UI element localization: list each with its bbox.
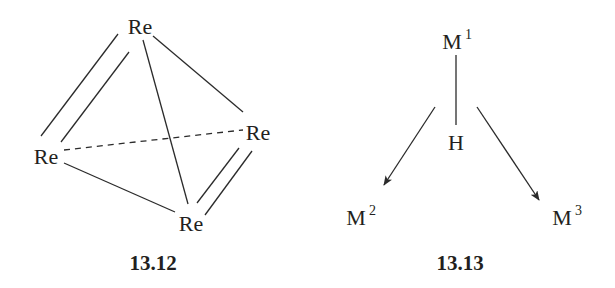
bond-top-right [153, 36, 243, 112]
atom-m3-symbol: M [552, 205, 572, 230]
re4-bonds [41, 34, 252, 215]
atom-m3-superscript: 3 [575, 203, 582, 218]
figure-13-13: M 1 H M 2 M 3 13.13 [346, 27, 582, 275]
atom-m2: M 2 [346, 203, 376, 230]
atom-re-right: Re [246, 120, 270, 145]
atom-m2-superscript: 2 [369, 203, 376, 218]
atom-m2-symbol: M [346, 205, 366, 230]
arrow-h-to-m2 [384, 107, 435, 185]
bond-top-bottom [143, 40, 188, 204]
atom-re-left: Re [34, 144, 58, 169]
svg-text:M: M [346, 205, 366, 230]
svg-text:M: M [442, 29, 462, 54]
atom-m1: M 1 [442, 27, 472, 54]
diagram-canvas: Re Re Re Re 13.12 M 1 H M 2 [0, 0, 615, 288]
bond-right-bottom-inner [197, 148, 239, 203]
arrow-h-to-m3 [477, 107, 539, 200]
atom-m1-symbol: M [442, 29, 462, 54]
atom-m1-superscript: 1 [465, 27, 472, 42]
figure-13-12: Re Re Re Re 13.12 [34, 14, 270, 275]
svg-text:M: M [552, 205, 572, 230]
atom-h: H [448, 130, 464, 155]
bond-top-left-outer [41, 34, 118, 136]
bond-left-right-dashed [64, 130, 243, 150]
bond-left-bottom [64, 163, 175, 212]
figure-label-13-13: 13.13 [436, 251, 483, 275]
figure-label-13-12: 13.12 [129, 251, 176, 275]
atom-re-bottom: Re [179, 211, 203, 236]
atom-m3: M 3 [552, 203, 582, 230]
atom-re-top: Re [128, 14, 152, 39]
